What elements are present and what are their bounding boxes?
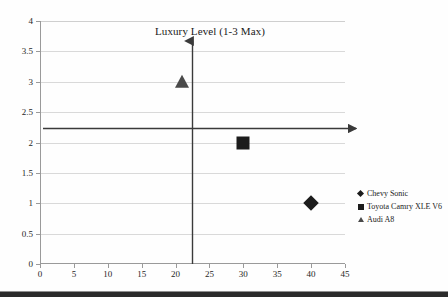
x-tick-mark-20 bbox=[176, 264, 177, 268]
legend-item-chevy-sonic[interactable]: Chevy Sonic bbox=[356, 188, 446, 199]
legend-item-toyota-camry-xle-v6[interactable]: Toyota Camry XLE V6 bbox=[356, 201, 446, 212]
x-tick-mark-40 bbox=[311, 264, 312, 268]
x-tick-label-35: 35 bbox=[273, 270, 282, 279]
y-tick-label-4: 4 bbox=[29, 17, 34, 26]
triangle-marker-icon bbox=[356, 217, 365, 222]
x-tick-label-45: 45 bbox=[341, 270, 350, 279]
x-tick-label-5: 5 bbox=[72, 270, 77, 279]
legend-label: Audi A8 bbox=[367, 216, 394, 224]
y-tick-label-3: 3 bbox=[29, 77, 34, 86]
x-tick-label-40: 40 bbox=[307, 270, 316, 279]
chart-title: Luxury Level (1-3 Max) bbox=[155, 26, 265, 37]
x-tick-label-10: 10 bbox=[103, 270, 112, 279]
diamond-marker-icon bbox=[356, 191, 365, 196]
x-tick-label-0: 0 bbox=[38, 270, 43, 279]
scatter-chart: 4 3.5 3 2.5 2 1.5 1 0.5 0 0 5 10 15 20 2… bbox=[0, 0, 448, 297]
legend-label: Toyota Camry XLE V6 bbox=[367, 203, 442, 211]
x-tick-mark-25 bbox=[209, 264, 210, 268]
x-tick-mark-45 bbox=[345, 264, 346, 268]
y-tick-label-3_5: 3.5 bbox=[22, 47, 33, 56]
plot-area: 4 3.5 3 2.5 2 1.5 1 0.5 0 0 5 10 15 20 2… bbox=[40, 21, 345, 264]
page-rule-thick bbox=[0, 292, 448, 297]
x-tick-mark-15 bbox=[142, 264, 143, 268]
x-tick-label-20: 20 bbox=[171, 270, 180, 279]
square-marker-icon bbox=[356, 204, 365, 210]
y-tick-label-1_5: 1.5 bbox=[22, 168, 33, 177]
x-tick-label-25: 25 bbox=[205, 270, 214, 279]
legend-label: Chevy Sonic bbox=[367, 190, 408, 198]
data-point-toyota-camry-xle-v6[interactable] bbox=[237, 136, 250, 149]
x-tick-label-15: 15 bbox=[137, 270, 146, 279]
x-tick-mark-10 bbox=[108, 264, 109, 268]
x-tick-mark-5 bbox=[74, 264, 75, 268]
crossing-axes-overlay bbox=[40, 21, 345, 264]
y-tick-label-2: 2 bbox=[29, 138, 34, 147]
y-tick-label-1: 1 bbox=[29, 199, 34, 208]
legend: Chevy Sonic Toyota Camry XLE V6 Audi A8 bbox=[356, 188, 446, 227]
x-tick-label-30: 30 bbox=[239, 270, 248, 279]
y-tick-label-0: 0 bbox=[29, 260, 34, 269]
x-tick-mark-35 bbox=[277, 264, 278, 268]
x-tick-mark-30 bbox=[243, 264, 244, 268]
data-point-audi-a8[interactable] bbox=[175, 75, 189, 88]
x-tick-mark-0 bbox=[40, 264, 41, 268]
legend-item-audi-a8[interactable]: Audi A8 bbox=[356, 214, 446, 225]
y-tick-label-0_5: 0.5 bbox=[22, 229, 33, 238]
y-tick-label-2_5: 2.5 bbox=[22, 108, 33, 117]
